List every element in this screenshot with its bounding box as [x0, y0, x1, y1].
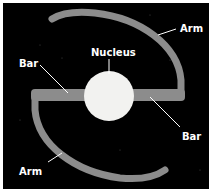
nucleus	[84, 71, 134, 121]
galaxy-diagram: Arm Nucleus Bar Bar Arm	[0, 0, 216, 195]
label-arm-bottom: Arm	[19, 166, 42, 177]
label-nucleus: Nucleus	[91, 47, 136, 58]
label-arm-top: Arm	[180, 23, 203, 34]
label-bar-left: Bar	[19, 58, 38, 69]
label-bar-right: Bar	[182, 131, 201, 142]
